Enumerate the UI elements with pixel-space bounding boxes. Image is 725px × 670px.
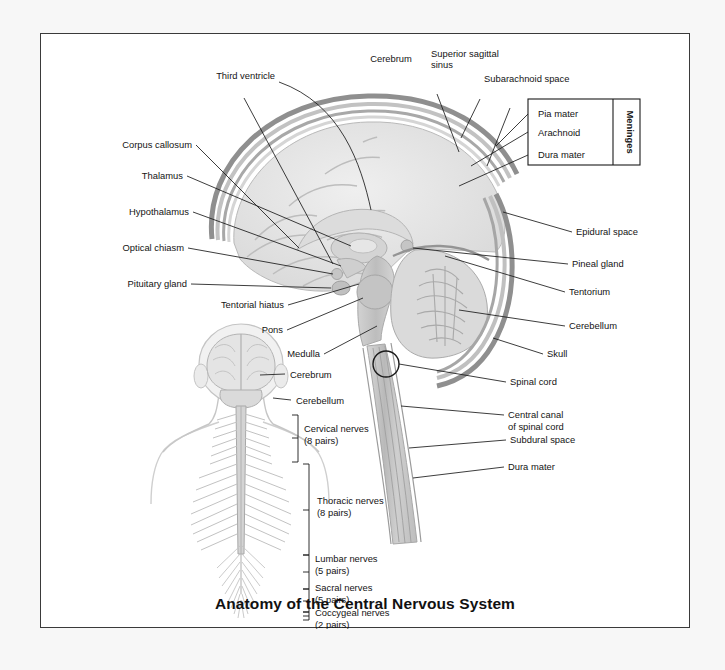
label-central-canal-line1: Central canal <box>508 409 563 420</box>
label-superior-sagittal-sinus-line1: Superior sagittal <box>431 48 499 59</box>
spinal-cord-shape <box>367 344 417 544</box>
label-pia-mater: Pia mater <box>538 108 578 119</box>
label-tentorium: Tentorium <box>569 286 610 297</box>
label-pons: Pons <box>262 324 284 335</box>
cerebellum-shape <box>391 250 488 359</box>
label-pituitary-gland: Pituitary gland <box>128 278 187 289</box>
label-thalamus: Thalamus <box>142 170 183 181</box>
third-ventricle-shape <box>349 239 377 253</box>
figure-title: Anatomy of the Central Nervous System <box>41 595 689 613</box>
label-lumbar-nerves: Lumbar nerves <box>315 553 378 564</box>
label-coccygeal-nerves-pairs: (2 pairs) <box>315 619 349 629</box>
ear-right <box>274 364 288 388</box>
label-subarachnoid-space: Subarachnoid space <box>484 73 569 84</box>
label-thoracic-nerves: Thoracic nerves <box>317 495 384 506</box>
label-lumbar-nerves-pairs: (5 pairs) <box>315 565 349 576</box>
label-dura-mater-legend: Dura mater <box>538 149 585 160</box>
label-meninges-group: Meninges <box>625 110 636 153</box>
sagittal-head-illustration <box>211 96 517 544</box>
label-cervical-nerves: Cervical nerves <box>304 423 369 434</box>
ear-left <box>194 364 208 388</box>
label-tentorial-hiatus: Tentorial hiatus <box>221 299 284 310</box>
label-sacral-nerves: Sacral nerves <box>315 582 373 593</box>
label-subdural-space: Subdural space <box>510 434 575 445</box>
label-corpus-callosum: Corpus callosum <box>122 139 192 150</box>
cns-diagram: Third ventricle Cerebrum Superior sagitt… <box>41 34 691 629</box>
label-cerebrum-posterior: Cerebrum <box>290 369 332 380</box>
label-hypothalamus: Hypothalamus <box>129 206 189 217</box>
optic-chiasm-shape <box>332 269 343 280</box>
label-optical-chiasm: Optical chiasm <box>123 242 185 253</box>
label-cerebellum-posterior: Cerebellum <box>296 395 344 406</box>
label-dura-mater-spinal: Dura mater <box>508 461 555 472</box>
label-third-ventricle: Third ventricle <box>216 70 275 81</box>
figure-plate: Third ventricle Cerebrum Superior sagitt… <box>40 33 690 628</box>
page-background: Third ventricle Cerebrum Superior sagitt… <box>0 0 725 670</box>
label-thoracic-nerves-pairs: (8 pairs) <box>317 507 351 518</box>
label-medulla: Medulla <box>287 348 321 359</box>
label-epidural-space: Epidural space <box>576 226 638 237</box>
label-arachnoid: Arachnoid <box>538 127 580 138</box>
label-skull: Skull <box>547 348 567 359</box>
posterior-cerebellum <box>220 390 262 408</box>
label-cervical-nerves-pairs: (8 pairs) <box>304 435 338 446</box>
pons-shape <box>357 275 393 309</box>
pituitary-gland-shape <box>332 281 350 295</box>
label-pineal-gland: Pineal gland <box>572 258 624 269</box>
label-cerebellum-sagittal: Cerebellum <box>569 320 617 331</box>
label-cerebrum-sagittal: Cerebrum <box>370 53 412 64</box>
label-central-canal-line2: of spinal cord <box>508 421 564 432</box>
label-superior-sagittal-sinus-line2: sinus <box>431 59 453 70</box>
label-spinal-cord: Spinal cord <box>510 376 557 387</box>
